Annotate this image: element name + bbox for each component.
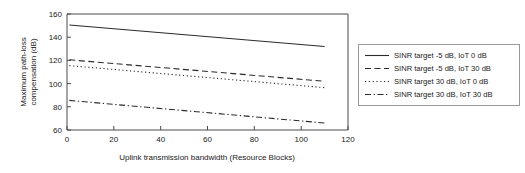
legend-label: SINR target 30 dB, IoT 30 dB xyxy=(394,90,493,99)
x-tick-label: 20 xyxy=(109,135,118,144)
series-group xyxy=(69,25,324,123)
y-tick-label: 80 xyxy=(53,103,62,112)
y-axis-title-line2: compensation (dB) xyxy=(29,38,38,105)
x-tick-label: 40 xyxy=(156,135,165,144)
series-line xyxy=(69,25,324,46)
y-axis-ticks xyxy=(67,14,71,130)
y-tick-label: 60 xyxy=(53,126,62,135)
x-tick-label: 80 xyxy=(250,135,259,144)
y-tick-label: 120 xyxy=(49,56,63,65)
legend-line-sample-dashdot xyxy=(364,89,390,100)
x-tick-label: 100 xyxy=(295,135,309,144)
series-line xyxy=(69,100,324,123)
x-axis-ticks xyxy=(67,126,348,130)
x-tick-label: 0 xyxy=(65,135,70,144)
legend-line-sample-dashed xyxy=(364,63,390,74)
y-tick-label: 100 xyxy=(49,80,63,89)
legend-item[interactable]: SINR target 30 dB, IoT 30 dB xyxy=(364,88,515,101)
legend-item[interactable]: SINR target 30 dB, IoT 0 dB xyxy=(364,75,515,88)
y-axis-title-line1: Maximum path-loss xyxy=(19,37,28,106)
legend-item[interactable]: SINR target -5 dB, IoT 0 dB xyxy=(364,49,515,62)
legend-label: SINR target -5 dB, IoT 0 dB xyxy=(394,51,487,60)
legend: SINR target -5 dB, IoT 0 dB SINR target … xyxy=(358,44,520,106)
y-tick-label: 160 xyxy=(49,10,63,19)
x-tick-label: 120 xyxy=(341,135,355,144)
y-axis-tick-labels: 60 80 100 120 140 160 xyxy=(49,10,63,135)
x-axis-title: Uplink transmission bandwidth (Resource … xyxy=(119,153,295,162)
legend-label: SINR target -5 dB, IoT 30 dB xyxy=(394,64,491,73)
legend-label: SINR target 30 dB, IoT 0 dB xyxy=(394,77,488,86)
legend-line-sample-solid xyxy=(364,50,390,61)
series-line xyxy=(69,66,324,88)
series-line xyxy=(69,60,324,81)
legend-item[interactable]: SINR target -5 dB, IoT 30 dB xyxy=(364,62,515,75)
x-axis-tick-labels: 0 20 40 60 80 100 120 xyxy=(65,135,355,144)
legend-line-sample-dotted xyxy=(364,76,390,87)
y-tick-label: 140 xyxy=(49,33,63,42)
figure-container: 60 80 100 120 140 160 0 20 40 60 80 100 … xyxy=(0,0,525,173)
x-tick-label: 60 xyxy=(203,135,212,144)
